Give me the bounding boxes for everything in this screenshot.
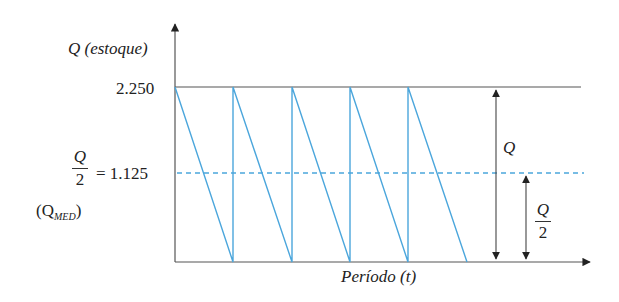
y-axis-q: Q <box>68 39 80 58</box>
fraction-bar <box>72 168 88 169</box>
arrow-half-denominator: 2 <box>539 224 548 241</box>
sawtooth-series <box>175 87 467 262</box>
half-q-arrow-label: Q 2 <box>535 201 551 241</box>
qmed-open: (Q <box>36 201 54 220</box>
half-q-numerator: Q <box>74 148 86 165</box>
half-q-fraction: Q 2 <box>72 148 88 188</box>
half-q-denominator: 2 <box>76 171 85 188</box>
y-axis-label: Q (estoque) <box>68 40 148 57</box>
fraction-bar <box>535 221 551 222</box>
qmed-subscript: MED <box>54 211 76 222</box>
x-axis-label: Período (t) <box>341 268 416 285</box>
qmed-label: (QMED) <box>36 202 81 222</box>
qmed-close: ) <box>76 201 82 220</box>
arrow-half-numerator: Q <box>537 201 549 218</box>
y-axis-unit: (estoque) <box>85 39 148 58</box>
tick-max: 2.250 <box>116 80 154 97</box>
q-arrow-label: Q <box>503 139 515 156</box>
tick-average: = 1.125 <box>96 165 148 182</box>
